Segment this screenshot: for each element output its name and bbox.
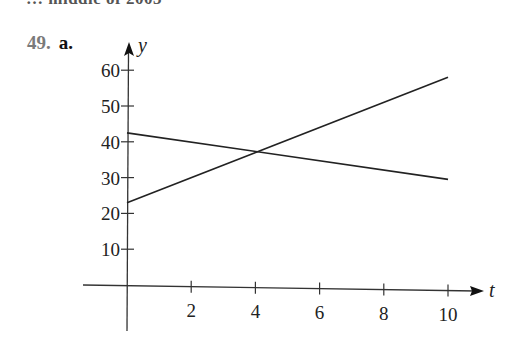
y-axis <box>127 52 129 331</box>
y-tick-label: 10 <box>101 239 120 260</box>
x-axis-arrow-icon <box>470 286 484 296</box>
axis-labels: yt <box>136 34 495 301</box>
x-axis <box>83 285 476 291</box>
line-chart: 246810102030405060 yt <box>0 0 514 341</box>
x-tick-label: 4 <box>251 301 261 322</box>
axes <box>83 42 484 331</box>
y-tick-label: 30 <box>101 168 120 189</box>
y-tick-label: 60 <box>101 60 120 81</box>
series-lines <box>127 77 448 202</box>
x-tick-label: 6 <box>315 302 325 323</box>
x-axis-label: t <box>489 279 495 301</box>
x-tick-label: 2 <box>186 300 196 321</box>
x-tick-label: 10 <box>439 304 458 325</box>
y-axis-label: y <box>136 34 147 57</box>
y-tick-label: 50 <box>101 96 120 117</box>
y-tick-label: 40 <box>101 132 120 153</box>
y-tick-label: 20 <box>101 203 120 224</box>
x-tick-label: 8 <box>379 303 389 324</box>
